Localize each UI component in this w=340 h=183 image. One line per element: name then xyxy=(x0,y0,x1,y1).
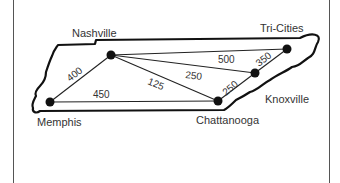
tennessee-graph-map: Nashville Memphis Chattanooga Knoxville … xyxy=(0,0,340,183)
node-tri-cities xyxy=(283,45,292,54)
weight-knoxville-tricities: 350 xyxy=(253,49,273,68)
label-memphis: Memphis xyxy=(37,116,82,128)
weight-chattanooga-knoxville: 250 xyxy=(220,78,240,97)
weight-memphis-chattanooga: 450 xyxy=(93,89,110,100)
node-nashville xyxy=(107,51,116,60)
weight-nashville-tricities: 500 xyxy=(218,54,235,65)
node-memphis xyxy=(46,98,55,107)
weight-memphis-nashville: 400 xyxy=(64,64,84,83)
node-chattanooga xyxy=(214,97,223,106)
label-knoxville: Knoxville xyxy=(265,93,309,105)
edge-memphis-chattanooga xyxy=(50,101,218,102)
weight-nashville-chattanooga: 125 xyxy=(146,76,166,93)
label-chattanooga: Chattanooga xyxy=(196,114,260,126)
label-tri-cities: Tri-Cities xyxy=(260,22,304,34)
weight-nashville-knoxville: 250 xyxy=(185,69,203,82)
label-nashville: Nashville xyxy=(72,27,117,39)
nodes xyxy=(46,45,292,107)
node-knoxville xyxy=(251,69,260,78)
